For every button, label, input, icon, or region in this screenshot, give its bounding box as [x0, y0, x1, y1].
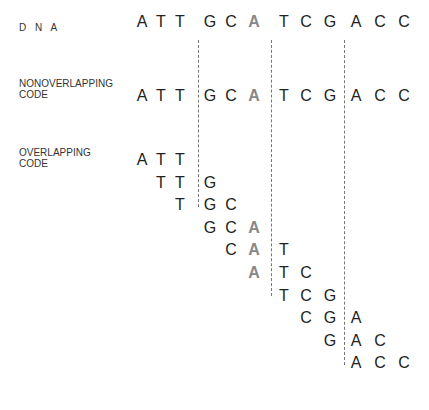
dna-base: C — [221, 13, 241, 31]
dna-base: G — [320, 13, 340, 31]
nonoverlap-base: C — [370, 87, 390, 105]
nonoverlap-base: T — [151, 87, 171, 105]
overlap-base: G — [200, 174, 220, 192]
nonoverlapping-label: NONOVERLAPPING CODE — [19, 78, 113, 100]
overlap-base: G — [320, 309, 340, 327]
nonoverlap-base: T — [274, 87, 294, 105]
overlap-base: T — [170, 151, 190, 169]
overlap-base: C — [370, 332, 390, 350]
overlap-base: A — [346, 354, 366, 372]
overlap-base: A — [244, 241, 264, 259]
nonoverlap-base: A — [132, 87, 152, 105]
overlap-base: C — [296, 264, 316, 282]
dna-base: A — [132, 13, 152, 31]
overlap-base: C — [370, 354, 390, 372]
overlap-base: T — [170, 196, 190, 214]
dna-base: G — [200, 13, 220, 31]
codon-divider — [344, 40, 345, 365]
overlap-base: G — [200, 219, 220, 237]
overlapping-label: OVERLAPPING CODE — [19, 147, 91, 169]
overlap-base: A — [346, 332, 366, 350]
overlap-base: G — [320, 332, 340, 350]
nonoverlap-base: C — [296, 87, 316, 105]
overlap-base: T — [151, 174, 171, 192]
dna-base: T — [274, 13, 294, 31]
dna-base: A — [346, 13, 366, 31]
overlap-base: G — [200, 196, 220, 214]
overlap-base: T — [274, 287, 294, 305]
overlap-base: C — [221, 219, 241, 237]
overlap-base: C — [221, 241, 241, 259]
overlap-base: G — [320, 287, 340, 305]
nonoverlap-base: A — [244, 87, 264, 105]
codon-divider — [271, 40, 272, 296]
overlap-base: C — [221, 196, 241, 214]
overlap-base: A — [132, 151, 152, 169]
dna-base: C — [370, 13, 390, 31]
dna-base: C — [296, 13, 316, 31]
nonoverlap-base: C — [221, 87, 241, 105]
dna-label: D N A — [19, 22, 60, 33]
overlap-base: T — [274, 241, 294, 259]
dna-base: A — [244, 13, 264, 31]
overlap-base: T — [274, 264, 294, 282]
overlap-base: A — [244, 219, 264, 237]
nonoverlap-base: C — [394, 87, 414, 105]
nonoverlap-base: A — [346, 87, 366, 105]
nonoverlap-base: T — [170, 87, 190, 105]
overlap-base: A — [244, 264, 264, 282]
dna-base: T — [151, 13, 171, 31]
overlap-base: T — [170, 174, 190, 192]
overlap-base: C — [394, 354, 414, 372]
overlap-base: T — [151, 151, 171, 169]
dna-base: C — [394, 13, 414, 31]
nonoverlap-base: G — [200, 87, 220, 105]
dna-base: T — [170, 13, 190, 31]
overlap-base: C — [296, 309, 316, 327]
codon-divider — [198, 40, 199, 207]
overlap-base: A — [346, 309, 366, 327]
nonoverlap-base: G — [320, 87, 340, 105]
overlap-base: C — [296, 287, 316, 305]
